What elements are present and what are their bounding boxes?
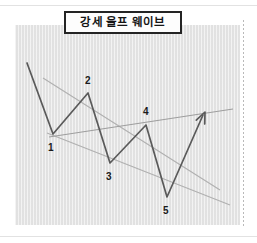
pivot-label-1: 1	[48, 143, 54, 153]
pivot-label-3: 3	[106, 172, 112, 182]
chart-panel: 1 2 3 4 5	[15, 25, 240, 225]
page-right-dotted-divider	[243, 20, 244, 228]
chart-title-box: 강세 울프 웨이브	[64, 11, 182, 34]
pivot-label-5: 5	[163, 206, 169, 216]
page-root: 1 2 3 4 5 강세 울프 웨이브	[0, 0, 257, 243]
page-top-rule	[0, 5, 257, 6]
pivot-label-4: 4	[143, 107, 149, 117]
page-bottom-rule	[0, 236, 257, 237]
chart-title-label: 강세 울프 웨이브	[80, 17, 165, 29]
lower-trendline	[47, 133, 230, 205]
price-path	[27, 63, 203, 197]
pivot-label-2: 2	[85, 76, 91, 86]
wolfe-wave-chart	[15, 25, 240, 225]
